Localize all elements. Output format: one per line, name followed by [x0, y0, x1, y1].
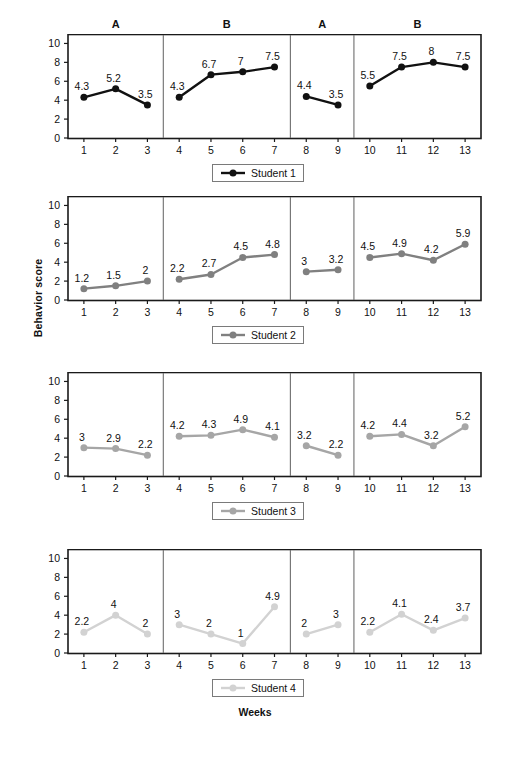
x-tick-label: 13 — [459, 482, 471, 494]
x-tick-label: 11 — [396, 144, 407, 156]
x-tick-label: 7 — [272, 306, 278, 318]
y-tick-label: 0 — [54, 132, 60, 144]
data-point-label: 4.9 — [233, 413, 248, 425]
y-tick-label: 6 — [54, 75, 60, 87]
legend-2[interactable]: Student 2 — [212, 326, 304, 344]
plot-area-4: 0246810123456789101112132.2423214.9232.2… — [0, 549, 510, 681]
series-line-phase-2 — [179, 67, 274, 97]
y-tick-label: 2 — [54, 275, 60, 287]
plot-wrapper-2: 0246810123456789101112131.21.522.22.74.5… — [0, 196, 510, 328]
x-tick-label: 3 — [145, 144, 151, 156]
data-point — [271, 434, 278, 441]
data-point — [176, 276, 183, 283]
data-point — [144, 278, 151, 285]
data-point-label: 5.5 — [361, 69, 376, 81]
x-tick-label: 8 — [303, 482, 309, 494]
data-point-label: 4.8 — [265, 238, 280, 250]
data-point — [80, 629, 87, 636]
y-tick-label: 4 — [54, 609, 60, 621]
data-point — [271, 64, 278, 71]
x-tick-label: 2 — [113, 482, 119, 494]
data-point-label: 3 — [333, 608, 339, 620]
y-tick-label: 6 — [54, 413, 60, 425]
legend-marker — [220, 168, 246, 178]
data-point-label: 4.1 — [265, 420, 280, 432]
data-point — [176, 94, 183, 101]
legend-label: Student 1 — [251, 168, 296, 179]
data-point — [462, 423, 469, 430]
x-tick-label: 6 — [240, 659, 246, 671]
data-point — [239, 640, 246, 647]
data-point-label: 4.5 — [361, 240, 376, 252]
plot-area-2: 0246810123456789101112131.21.522.22.74.5… — [0, 196, 510, 328]
x-tick-label: 2 — [113, 144, 119, 156]
data-point — [398, 250, 405, 257]
data-point-label: 4.3 — [202, 418, 217, 430]
data-point — [239, 426, 246, 433]
data-point-label: 4.5 — [233, 240, 248, 252]
data-point — [176, 621, 183, 628]
data-point-label: 3.2 — [297, 429, 312, 441]
x-tick-label: 13 — [459, 306, 471, 318]
x-tick-label: 10 — [364, 144, 376, 156]
data-point — [366, 629, 373, 636]
x-tick-label: 7 — [272, 659, 278, 671]
data-point-label: 3 — [79, 431, 85, 443]
y-tick-label: 10 — [48, 552, 60, 564]
data-point — [462, 241, 469, 248]
data-point — [239, 254, 246, 261]
data-point — [335, 101, 342, 108]
legend-4[interactable]: Student 4 — [212, 679, 304, 697]
plot-area-3: 02468101234567891011121332.92.24.24.34.9… — [0, 372, 510, 504]
x-tick-label: 10 — [364, 306, 376, 318]
data-point-label: 3.5 — [329, 88, 344, 100]
series-line-phase-4 — [370, 614, 465, 632]
series-line-phase-3 — [306, 625, 338, 634]
x-tick-label: 4 — [176, 482, 182, 494]
x-tick-label: 13 — [459, 659, 471, 671]
data-point-label: 4.1 — [392, 597, 407, 609]
data-point-label: 2 — [206, 617, 212, 629]
data-point — [80, 285, 87, 292]
y-tick-label: 8 — [54, 394, 60, 406]
data-point-label: 4.2 — [170, 419, 185, 431]
legend-1[interactable]: Student 1 — [212, 164, 304, 182]
x-tick-label: 12 — [428, 144, 440, 156]
data-point-label: 5.2 — [106, 72, 121, 84]
phase-label-row: ABAB — [0, 18, 510, 34]
x-tick-label: 6 — [240, 306, 246, 318]
x-tick-label: 4 — [176, 306, 182, 318]
data-point-label: 2.2 — [170, 262, 185, 274]
data-point-label: 3 — [301, 255, 307, 267]
data-point — [144, 452, 151, 459]
x-tick-label: 5 — [208, 144, 214, 156]
data-point — [80, 444, 87, 451]
data-point-label: 3.5 — [138, 88, 153, 100]
y-tick-label: 8 — [54, 218, 60, 230]
data-point-label: 3.2 — [424, 429, 439, 441]
plot-wrapper-3: 02468101234567891011121332.92.24.24.34.9… — [0, 372, 510, 504]
data-point-label: 4.9 — [265, 590, 280, 602]
data-point — [335, 621, 342, 628]
data-point-label: 4.3 — [170, 80, 185, 92]
data-point-label: 2.7 — [202, 257, 217, 269]
data-point-label: 1.5 — [106, 269, 121, 281]
legend-3[interactable]: Student 3 — [212, 502, 304, 520]
data-point-label: 4.3 — [75, 80, 90, 92]
x-tick-label: 5 — [208, 659, 214, 671]
x-tick-label: 13 — [459, 144, 471, 156]
data-point — [207, 271, 214, 278]
series-line-phase-4 — [370, 244, 465, 260]
x-tick-label: 3 — [145, 482, 151, 494]
x-tick-label: 3 — [145, 306, 151, 318]
series-line-phase-3 — [306, 270, 338, 272]
y-tick-label: 6 — [54, 237, 60, 249]
data-point-label: 2.2 — [75, 615, 90, 627]
legend-label: Student 2 — [251, 330, 296, 341]
data-point — [303, 93, 310, 100]
data-point — [303, 442, 310, 449]
y-tick-label: 0 — [54, 470, 60, 482]
y-tick-label: 4 — [54, 94, 60, 106]
data-point — [303, 631, 310, 638]
x-tick-label: 5 — [208, 306, 214, 318]
